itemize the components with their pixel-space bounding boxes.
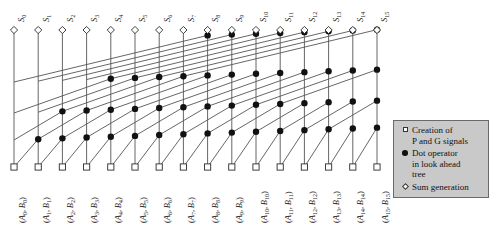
dot-operator-s2-c12 — [301, 100, 307, 106]
legend-item-2-line-0: Sum generation — [412, 182, 469, 193]
pg-creation-node-14 — [350, 164, 356, 170]
dot-operator-s2-c2 — [59, 108, 65, 114]
legend-item-1-label: Dot operator in look ahead tree — [411, 148, 461, 180]
pg-creation-node-8 — [205, 164, 211, 170]
sum-generation-node-2 — [59, 26, 66, 33]
pg-creation-node-5 — [132, 164, 138, 170]
sum-label-6: S6 — [163, 15, 172, 22]
sum-label-11: S11 — [284, 12, 293, 22]
operand-label-3: (A3, B3) — [90, 197, 99, 223]
filled-dot-icon — [399, 148, 411, 156]
dot-operator-s2-c4 — [108, 107, 114, 113]
sum-generation-node-15 — [373, 26, 380, 33]
dot-operator-s3-c6 — [156, 74, 162, 80]
dot-operator-s1-c13 — [325, 126, 331, 132]
sum-label-12: S12 — [308, 12, 317, 22]
dot-operator-s1-c3 — [83, 134, 89, 140]
sum-generation-node-14 — [349, 26, 356, 33]
sum-label-10: S10 — [259, 12, 268, 22]
stage-1-edge-3-to-4 — [87, 137, 111, 167]
sum-generation-node-4 — [107, 26, 114, 33]
stage-1-edge-9-to-10 — [232, 132, 256, 167]
dot-operator-s2-c11 — [277, 101, 283, 107]
diagram-canvas: S0S1S2S3S4S5S6S7S8S9S10S11S12S13S14S15 (… — [0, 0, 490, 234]
operand-label-9: (A9, B9) — [235, 197, 244, 223]
sum-label-3: S3 — [90, 15, 99, 22]
pg-creation-node-7 — [180, 164, 186, 170]
operand-label-1: (A1, B1) — [42, 197, 51, 223]
sum-label-5: S5 — [138, 15, 147, 22]
stage-1-edge-2-to-3 — [62, 138, 86, 167]
dot-operator-s1-c6 — [156, 132, 162, 138]
operand-label-2: (A2, B2) — [66, 197, 75, 223]
dot-operator-s3-c10 — [253, 71, 259, 77]
sum-generation-node-8 — [204, 26, 211, 33]
sum-label-0: S0 — [17, 15, 26, 22]
pg-creation-node-15 — [374, 164, 380, 170]
operand-label-14: (A14, B14) — [356, 191, 365, 223]
sum-generation-node-1 — [35, 26, 42, 33]
dot-operator-s2-c14 — [350, 98, 356, 104]
sum-generation-node-3 — [83, 26, 90, 33]
dot-operator-s2-c6 — [156, 105, 162, 111]
pg-creation-node-13 — [326, 164, 332, 170]
stage-1-edge-10-to-11 — [256, 131, 280, 167]
dot-operator-s2-c10 — [253, 102, 259, 108]
pg-creation-node-12 — [301, 164, 307, 170]
sum-generation-node-5 — [131, 26, 138, 33]
legend-panel: Creation of P and G signals Dot operator… — [393, 120, 489, 198]
pg-creation-node-2 — [59, 164, 65, 170]
dot-operator-s2-c9 — [229, 102, 235, 108]
sum-generation-node-6 — [156, 26, 163, 33]
dot-operator-s3-c15 — [374, 66, 380, 72]
dot-operator-s3-c14 — [350, 67, 356, 73]
dot-operator-s3-c9 — [229, 71, 235, 77]
stage-1-edge-0-to-1 — [14, 139, 38, 167]
dot-operator-s2-c8 — [204, 103, 210, 109]
sum-label-2: S2 — [66, 15, 75, 22]
legend-item-1: Dot operator in look ahead tree — [399, 148, 461, 180]
legend-item-1-line-0: Dot operator — [412, 148, 461, 159]
operand-label-10: (A10, B10) — [260, 191, 269, 223]
dot-operator-s3-c11 — [277, 70, 283, 76]
sum-label-7: S7 — [187, 15, 196, 22]
dot-operator-s2-c5 — [132, 106, 138, 112]
sum-label-13: S13 — [332, 12, 341, 22]
dot-operator-s2-c15 — [374, 97, 380, 103]
legend-item-0-line-0: Creation of — [412, 125, 468, 136]
dot-operator-s2-c13 — [325, 99, 331, 105]
stage-1-edge-1-to-2 — [38, 138, 62, 167]
dot-operator-s3-c4 — [108, 76, 114, 82]
open-diamond-icon — [399, 182, 411, 189]
dot-operator-s1-c9 — [229, 129, 235, 135]
legend-item-0: Creation of P and G signals — [399, 125, 468, 146]
dot-operator-s1-c11 — [277, 128, 283, 134]
dot-operator-s1-c10 — [253, 129, 259, 135]
pg-creation-node-9 — [229, 164, 235, 170]
dot-operator-s3-c12 — [301, 69, 307, 75]
sum-label-15: S15 — [380, 12, 389, 22]
pg-creation-node-4 — [108, 164, 114, 170]
legend-item-1-line-2: tree — [412, 169, 461, 180]
operand-label-6: (A6, B6) — [163, 197, 172, 223]
dot-operator-s1-c2 — [59, 135, 65, 141]
dot-operator-s2-c7 — [180, 104, 186, 110]
pg-creation-node-10 — [253, 164, 259, 170]
dot-operator-s2-c3 — [83, 107, 89, 113]
stage-1-edge-6-to-7 — [159, 134, 183, 167]
sum-label-4: S4 — [114, 15, 123, 22]
stage-1-edge-5-to-6 — [135, 135, 159, 167]
pg-creation-node-6 — [156, 164, 162, 170]
operand-label-7: (A7, B7) — [187, 197, 196, 223]
pg-creation-node-1 — [35, 164, 41, 170]
sum-generation-node-7 — [180, 26, 187, 33]
dot-operator-s1-c15 — [374, 124, 380, 130]
dot-operator-s1-c8 — [204, 130, 210, 136]
operand-label-5: (A5, B5) — [139, 197, 148, 223]
stage-1-edge-13-to-14 — [329, 128, 353, 167]
operand-label-0: (A0, B0) — [18, 197, 27, 223]
legend-item-2: Sum generation — [399, 182, 469, 193]
pg-creation-node-0 — [11, 164, 17, 170]
stage-1-edge-8-to-9 — [208, 133, 232, 167]
sum-label-14: S14 — [356, 12, 365, 22]
